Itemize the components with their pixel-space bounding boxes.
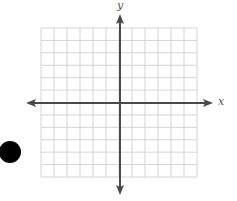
coordinate-grid-svg <box>0 0 237 201</box>
black-dot-marker <box>0 141 21 163</box>
x-axis-label: x <box>218 96 224 107</box>
y-axis-label: y <box>117 0 123 11</box>
